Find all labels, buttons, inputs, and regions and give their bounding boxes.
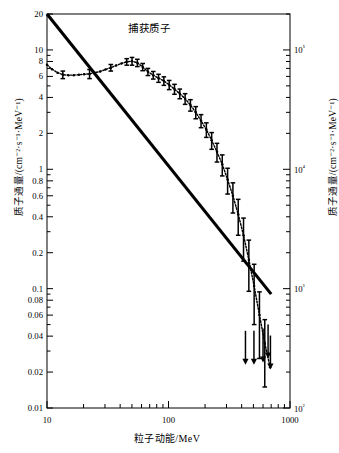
data-point xyxy=(99,70,102,73)
x-axis-label: 粒子动能/MeV xyxy=(0,430,334,445)
data-point xyxy=(83,73,86,76)
data-point xyxy=(189,104,192,107)
data-point xyxy=(205,128,208,131)
data-point xyxy=(226,178,229,181)
upper-limit-arrowhead xyxy=(267,364,273,370)
y-ticklabel-left: 20 xyxy=(34,9,43,19)
y-ticklabel-left: 0.4 xyxy=(32,212,44,222)
measured-spectrum-line xyxy=(47,61,270,367)
y-ticklabel-left: 0.8 xyxy=(32,176,44,186)
y-ticklabel-left: 0.06 xyxy=(28,310,44,320)
y-ticklabel-right: 10³ xyxy=(294,283,305,295)
x-ticklabel: 100 xyxy=(162,415,176,425)
y-ticklabel-left: 6 xyxy=(39,71,44,81)
data-point xyxy=(115,64,118,67)
data-point xyxy=(242,234,245,237)
y-ticklabel-left: 0.01 xyxy=(28,403,43,413)
data-point xyxy=(46,64,49,67)
data-point xyxy=(125,61,128,64)
data-point xyxy=(200,120,203,123)
y-ticklabel-left: 1 xyxy=(39,164,43,174)
data-point xyxy=(157,77,160,80)
y-ticklabel-left: 0.2 xyxy=(32,248,43,258)
data-point xyxy=(62,73,65,76)
data-point xyxy=(141,66,144,69)
data-point xyxy=(147,71,150,74)
upper-limit-arrowhead xyxy=(251,359,257,365)
data-point xyxy=(56,71,59,74)
y-ticklabel-left: 0.04 xyxy=(28,331,44,341)
data-point xyxy=(51,68,54,71)
data-point xyxy=(163,80,166,83)
y-axis-right-label: 质子通量/(cm⁻²·s⁻¹·MeV⁻¹) xyxy=(325,57,339,257)
data-point xyxy=(72,74,75,77)
data-point xyxy=(210,139,213,142)
data-point xyxy=(221,163,224,166)
data-point xyxy=(173,88,176,91)
data-point xyxy=(179,92,182,95)
data-point xyxy=(258,314,261,317)
data-point xyxy=(184,97,187,100)
data-point xyxy=(104,68,107,71)
y-ticklabel-left: 10 xyxy=(34,45,43,55)
data-point xyxy=(152,74,155,77)
y-ticklabel-right: 10⁴ xyxy=(294,163,305,175)
y-ticklabel-left: 8 xyxy=(39,56,44,66)
y-ticklabel-left: 0.02 xyxy=(28,367,43,377)
data-point xyxy=(168,84,171,87)
y-ticklabel-right: 10⁵ xyxy=(294,44,305,56)
data-point xyxy=(216,151,219,154)
data-point xyxy=(136,62,139,65)
data-point xyxy=(237,213,240,216)
data-point xyxy=(88,73,91,76)
upper-limit-arrowhead xyxy=(242,359,248,365)
data-point xyxy=(120,62,123,65)
errorbar-group xyxy=(46,57,272,387)
y-ticklabel-left: 0.1 xyxy=(32,284,43,294)
y-ticklabel-left: 0.08 xyxy=(28,295,44,305)
data-point xyxy=(67,74,70,77)
y-ticklabel-left: 2 xyxy=(39,128,43,138)
x-ticklabel: 10 xyxy=(43,415,52,425)
data-point xyxy=(248,258,251,261)
y-ticklabel-left: 0.6 xyxy=(32,191,44,201)
data-point xyxy=(253,285,256,288)
data-point xyxy=(131,60,134,63)
chart-annotation: 捕获质子 xyxy=(128,20,170,35)
data-point xyxy=(78,73,81,76)
y-ticklabel-left: 4 xyxy=(39,92,44,102)
model-line xyxy=(47,14,271,294)
y-axis-left-label: 质子通量/(cm⁻²·s⁻¹·MeV⁻¹) xyxy=(11,57,25,257)
data-point xyxy=(232,195,235,198)
data-point xyxy=(110,66,113,69)
data-point xyxy=(94,71,97,74)
data-point xyxy=(264,342,267,345)
y-ticklabel-right: 10² xyxy=(294,402,305,414)
x-ticklabel: 1000 xyxy=(281,415,299,425)
data-point xyxy=(194,111,197,114)
